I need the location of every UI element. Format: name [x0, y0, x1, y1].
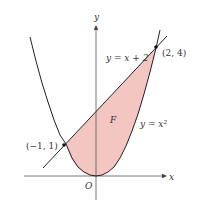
y-axis-label: y — [93, 12, 100, 22]
origin-label: O — [85, 181, 93, 191]
point-label-2-4: (2, 4) — [162, 48, 186, 58]
area-diagram: y x O y = x + 2 y = x² F (−1, 1) (2, 4) — [0, 0, 200, 207]
point-label-minus1-1: (−1, 1) — [26, 141, 58, 151]
x-axis-label: x — [169, 172, 174, 182]
parabola-label: y = x² — [139, 119, 167, 129]
region-label: F — [109, 115, 117, 125]
point-2-4 — [154, 45, 158, 49]
line-label: y = x + 2 — [105, 53, 149, 63]
shaded-region-fill — [66, 48, 156, 176]
point-minus1-1 — [62, 143, 66, 147]
